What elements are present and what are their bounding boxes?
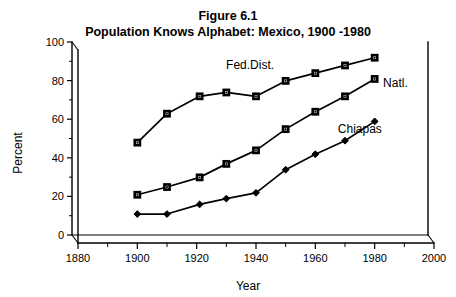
y-tick-label: 60	[52, 113, 64, 125]
y-tick-label: 100	[46, 36, 64, 48]
x-tick-label: 1980	[362, 252, 386, 264]
chart-subtitle: Population Knows Alphabet: Mexico, 1900 …	[85, 25, 371, 39]
data-point-marker	[223, 195, 230, 202]
x-axis-title: Year	[236, 279, 260, 293]
data-point-marker-core	[285, 80, 287, 82]
data-point-marker-core	[344, 65, 346, 67]
y-tick-label: 80	[52, 75, 64, 87]
data-point-marker-core	[199, 176, 201, 178]
data-point-marker-core	[374, 57, 376, 59]
data-point-marker-core	[314, 72, 316, 74]
data-point-marker-core	[166, 186, 168, 188]
data-point-marker-core	[225, 163, 227, 165]
depth-line-top-left	[72, 42, 78, 50]
data-point-marker-core	[344, 95, 346, 97]
series-label-fed-dist: Fed.Dist.	[226, 58, 274, 72]
data-point-marker-core	[314, 111, 316, 113]
chart-title: Figure 6.1	[198, 9, 257, 23]
y-axis: 020406080100	[46, 36, 72, 241]
y-tick-label: 0	[58, 229, 64, 241]
data-point-marker	[164, 211, 171, 218]
depth-line-bottom-left	[72, 235, 78, 243]
x-tick-label: 2000	[422, 252, 446, 264]
y-axis-title: Percent	[11, 132, 25, 174]
x-axis: 1880190019201940196019802000	[66, 243, 446, 264]
x-tick-label: 1920	[184, 252, 208, 264]
depth-line-bottom-right	[428, 235, 434, 243]
data-point-marker-core	[136, 194, 138, 196]
y-tick-label: 20	[52, 190, 64, 202]
x-tick-label: 1940	[244, 252, 268, 264]
data-point-marker	[312, 151, 319, 158]
data-point-marker	[134, 211, 141, 218]
data-point-marker-core	[199, 95, 201, 97]
x-tick-label: 1900	[125, 252, 149, 264]
data-point-marker-core	[374, 78, 376, 80]
population-alphabet-line-chart: Figure 6.1 Population Knows Alphabet: Me…	[0, 0, 456, 297]
x-tick-label: 1960	[303, 252, 327, 264]
data-point-marker-core	[136, 142, 138, 144]
series-label-natl: Natl.	[383, 76, 408, 90]
figure-container: Figure 6.1 Population Knows Alphabet: Me…	[0, 0, 456, 297]
data-point-marker	[196, 201, 203, 208]
data-point-marker-core	[285, 128, 287, 130]
series-label-chiapas: Chiapas	[338, 122, 382, 136]
x-tick-label: 1880	[66, 252, 90, 264]
data-series-group	[134, 55, 378, 217]
data-point-marker-core	[166, 113, 168, 115]
y-tick-label: 40	[52, 152, 64, 164]
data-point-marker-core	[255, 95, 257, 97]
data-point-marker-core	[255, 149, 257, 151]
data-point-marker-core	[225, 92, 227, 94]
